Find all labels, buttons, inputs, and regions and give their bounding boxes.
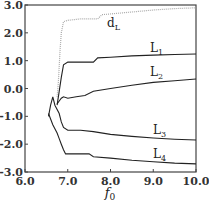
curve-label-l4: L4 (153, 147, 166, 163)
y-axis: 3.02.01.00.0-1.0-2.0-3.0 (0, 0, 28, 179)
series-l2 (57, 79, 196, 104)
curve-label-l3: L3 (153, 123, 166, 139)
y-tick-label: 0.0 (4, 83, 23, 96)
curve-label-dl: dL (107, 16, 121, 32)
curve-labels: dLL1L2L3L4 (107, 16, 166, 163)
chart: 3.02.01.00.0-1.0-2.0-3.0 6.07.08.09.010.… (0, 0, 209, 203)
y-tick-label: -1.0 (0, 110, 23, 123)
series-dl (57, 8, 196, 97)
y-tick-label: -2.0 (0, 138, 23, 151)
curve-label-l1: L1 (150, 41, 163, 57)
series-l1 (57, 54, 196, 105)
series-l3 (49, 97, 197, 140)
x-tick-label: 10.0 (183, 175, 209, 188)
curve-label-l2: L2 (150, 65, 163, 81)
y-tick-label: 1.0 (4, 55, 23, 68)
x-tick-label: 9.0 (144, 175, 163, 188)
y-tick-label: 3.0 (4, 0, 23, 12)
y-tick-label: 2.0 (4, 27, 23, 40)
x-tick-label: 7.0 (58, 175, 77, 188)
x-tick-label: 6.0 (15, 175, 34, 188)
series-group (49, 8, 197, 164)
